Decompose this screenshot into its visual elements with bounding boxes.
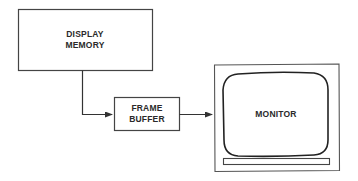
display-memory-label: DISPLAY MEMORY (40, 29, 130, 51)
diagram-canvas (0, 0, 358, 181)
frame-buffer-label-line2: BUFFER (114, 114, 180, 125)
display-memory-label-line1: DISPLAY (40, 29, 130, 40)
monitor-control-slot (224, 159, 330, 165)
frame-buffer-label: FRAME BUFFER (114, 103, 180, 125)
monitor-label: MONITOR (236, 109, 316, 120)
frame-buffer-label-line1: FRAME (114, 103, 180, 114)
monitor-label-line1: MONITOR (236, 109, 316, 120)
memory-to-buffer-connector (83, 71, 113, 115)
display-memory-label-line2: MEMORY (40, 40, 130, 51)
